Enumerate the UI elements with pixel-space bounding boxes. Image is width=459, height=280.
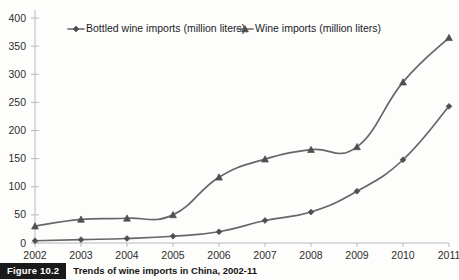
y-tick-label: 150 <box>8 152 26 164</box>
y-tick-label: 50 <box>14 208 26 220</box>
y-tick-label: 350 <box>8 40 26 52</box>
legend-item-2: Wine imports (million liters) <box>237 22 381 34</box>
x-tick-label: 2003 <box>69 249 93 261</box>
data-point-marker <box>262 218 268 224</box>
x-tick-label: 2004 <box>115 249 139 261</box>
data-point-marker <box>78 237 84 243</box>
x-tick-label: 2011 <box>438 249 459 261</box>
figure-caption-text: Trends of wine imports in China, 2002-11 <box>73 263 257 276</box>
x-tick-label: 2008 <box>299 249 323 261</box>
legend-label: Bottled wine imports (million liters) <box>86 22 245 34</box>
y-axis-labels: 050100150200250300350400 <box>8 12 26 249</box>
series-2 <box>32 34 453 229</box>
y-tick-label: 300 <box>8 68 26 80</box>
y-tick-label: 400 <box>8 12 26 24</box>
x-tick-label: 2010 <box>391 249 415 261</box>
data-series <box>32 34 453 243</box>
x-tick-label: 2006 <box>207 249 231 261</box>
data-point-marker <box>170 233 176 239</box>
y-tick-label: 100 <box>8 180 26 192</box>
y-tick-label: 200 <box>8 124 26 136</box>
figure-container: 050100150200250300350400 200220032004200… <box>0 0 459 280</box>
figure-number-badge: Figure 10.2 <box>0 263 66 279</box>
figure-caption: Figure 10.2 Trends of wine imports in Ch… <box>0 263 459 280</box>
x-tick-label: 2009 <box>345 249 369 261</box>
axis-ticks <box>31 18 449 247</box>
y-tick-label: 250 <box>8 96 26 108</box>
data-point-marker <box>216 229 222 235</box>
data-point-marker <box>308 209 314 215</box>
legend-label: Wine imports (million liters) <box>255 22 381 34</box>
y-tick-label: 0 <box>20 237 26 249</box>
series-1 <box>32 103 452 243</box>
x-tick-label: 2002 <box>23 249 47 261</box>
data-point-marker <box>216 174 223 180</box>
x-tick-label: 2007 <box>253 249 277 261</box>
x-tick-label: 2005 <box>161 249 185 261</box>
data-point-marker <box>446 34 453 40</box>
legend-marker <box>73 26 79 32</box>
data-point-marker <box>124 236 130 242</box>
line-chart: 050100150200250300350400 200220032004200… <box>0 0 459 262</box>
chart-area: 050100150200250300350400 200220032004200… <box>0 0 459 262</box>
chart-legend: Bottled wine imports (million liters)Win… <box>68 22 381 34</box>
x-axis-labels: 2002200320042005200620072008200920102011 <box>23 249 459 261</box>
legend-item-1: Bottled wine imports (million liters) <box>68 22 245 34</box>
